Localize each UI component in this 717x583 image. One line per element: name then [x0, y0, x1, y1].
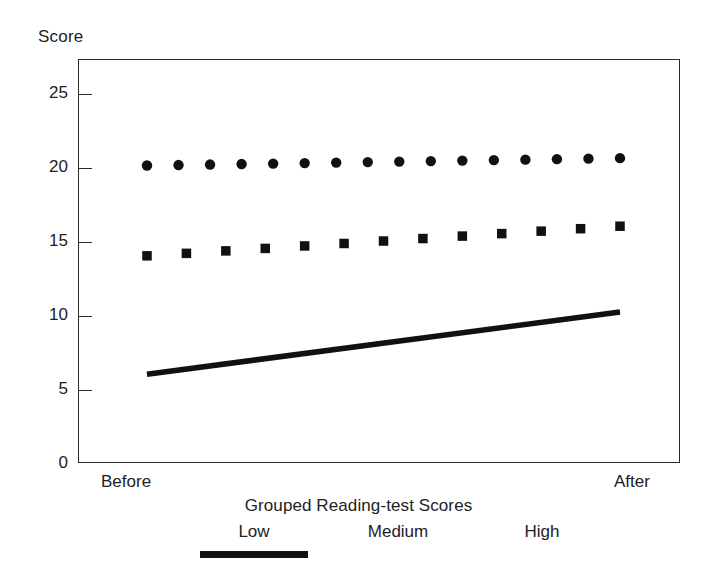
chart-legend: Grouped Reading-test Scores Low Medium H… — [0, 496, 717, 568]
legend-swatch-squares — [338, 547, 458, 561]
y-axis-tick-label: 20 — [22, 157, 68, 177]
y-axis-tick-labels: 2520151050 — [16, 59, 68, 463]
legend-entry-medium[interactable]: Medium — [330, 522, 466, 561]
legend-title: Grouped Reading-test Scores — [0, 496, 717, 516]
y-axis-tick-label: 0 — [22, 453, 68, 473]
y-axis-tick — [79, 168, 92, 169]
legend-label-low: Low — [186, 522, 322, 542]
legend-entry-low[interactable]: Low — [186, 522, 322, 572]
legend-label-medium: Medium — [330, 522, 466, 542]
y-axis-tick — [79, 94, 92, 95]
y-axis-tick-label: 5 — [22, 379, 68, 399]
legend-entries: Low Medium High — [0, 522, 717, 568]
y-axis-tick — [79, 242, 92, 243]
y-axis-title: Score — [38, 27, 83, 47]
chart-figure: Score 2520151050 Before After Grouped Re… — [0, 0, 717, 583]
x-axis-label-after: After — [614, 472, 650, 492]
y-axis-tick — [79, 316, 92, 317]
legend-label-high: High — [474, 522, 610, 542]
plot-area — [78, 59, 680, 463]
y-axis-tick-label: 10 — [22, 305, 68, 325]
y-axis-tick-label: 15 — [22, 231, 68, 251]
x-axis-label-before: Before — [101, 472, 151, 492]
legend-swatch-dots — [482, 547, 602, 561]
y-axis-tick-label: 25 — [22, 83, 68, 103]
y-axis-tick — [79, 390, 92, 391]
legend-swatch-solid-line — [200, 551, 308, 572]
legend-entry-high[interactable]: High — [474, 522, 610, 561]
